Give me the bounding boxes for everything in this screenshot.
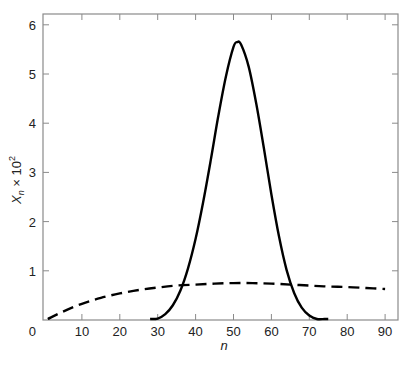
y-tick-label: 4 bbox=[29, 116, 36, 131]
x-tick-label: 30 bbox=[150, 324, 164, 339]
axis-tick-labels: 0102030405060708090123456 bbox=[29, 18, 393, 339]
y-tick-label: 2 bbox=[29, 215, 36, 230]
y-tick-label: 6 bbox=[29, 18, 36, 33]
dashed-series-line bbox=[48, 283, 385, 319]
x-tick-label: 60 bbox=[264, 324, 278, 339]
x-tick-label: 20 bbox=[113, 324, 127, 339]
y-axis-label-times: × 10 bbox=[9, 161, 24, 190]
x-tick-label: 90 bbox=[378, 324, 392, 339]
x-tick-label: 10 bbox=[75, 324, 89, 339]
y-tick-label: 5 bbox=[29, 67, 36, 82]
data-series bbox=[48, 42, 385, 320]
y-tick-label: 3 bbox=[29, 165, 36, 180]
x-axis-label: n bbox=[220, 338, 227, 353]
axis-ticks bbox=[43, 14, 398, 320]
plot-border bbox=[43, 14, 398, 320]
x-tick-label: 0 bbox=[29, 324, 36, 339]
x-tick-label: 80 bbox=[340, 324, 354, 339]
x-tick-label: 40 bbox=[188, 324, 202, 339]
svg-text:Xn × 102: Xn × 102 bbox=[7, 156, 26, 205]
solid-series-line bbox=[150, 42, 328, 320]
x-tick-label: 50 bbox=[226, 324, 240, 339]
chart: 0102030405060708090123456 n Xn × 102 bbox=[0, 0, 413, 365]
y-axis-label: Xn × 102 bbox=[7, 156, 26, 205]
x-tick-label: 70 bbox=[302, 324, 316, 339]
y-tick-label: 1 bbox=[29, 264, 36, 279]
plot-frame bbox=[43, 14, 398, 320]
y-axis-label-sup: 2 bbox=[7, 156, 17, 161]
